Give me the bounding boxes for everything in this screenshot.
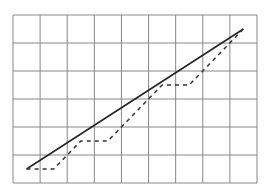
diagram-canvas <box>0 0 269 192</box>
